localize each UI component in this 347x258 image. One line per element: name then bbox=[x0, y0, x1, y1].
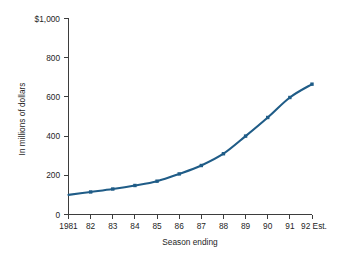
data-point-86 bbox=[177, 172, 180, 175]
x-axis-group: 1981 82 83 84 85 86 87 88 89 90 91 92 Es… bbox=[59, 215, 327, 248]
data-point-90 bbox=[266, 116, 269, 119]
y-tick-label-200: 200 bbox=[46, 170, 60, 180]
chart-canvas: $1,000 800 600 400 200 0 In millions of … bbox=[0, 0, 347, 258]
data-point-83 bbox=[111, 187, 114, 190]
x-tick-label-89: 89 bbox=[241, 221, 251, 231]
y-tick-label-800: 800 bbox=[46, 53, 60, 63]
x-tick-label-84: 84 bbox=[130, 221, 140, 231]
data-point-82 bbox=[89, 190, 92, 193]
data-point-85 bbox=[155, 179, 158, 182]
x-tick-label-88: 88 bbox=[219, 221, 229, 231]
line-chart: $1,000 800 600 400 200 0 In millions of … bbox=[0, 0, 347, 258]
data-point-87 bbox=[200, 164, 203, 167]
data-point-92 Est. bbox=[310, 82, 313, 85]
y-tick-label-0: 0 bbox=[55, 210, 60, 220]
y-tick-label-600: 600 bbox=[46, 92, 60, 102]
x-tick-label-87: 87 bbox=[197, 221, 207, 231]
data-point-91 bbox=[288, 96, 291, 99]
y-tick-label-1000: $1,000 bbox=[35, 14, 61, 24]
data-point-88 bbox=[222, 152, 225, 155]
x-tick-label-91: 91 bbox=[285, 221, 295, 231]
data-series-group bbox=[69, 82, 314, 194]
y-tick-label-400: 400 bbox=[46, 131, 60, 141]
x-tick-label-85: 85 bbox=[152, 221, 162, 231]
x-tick-label-1981: 1981 bbox=[59, 221, 78, 231]
y-axis-title: In millions of dollars bbox=[17, 83, 27, 156]
x-tick-label-86: 86 bbox=[175, 221, 185, 231]
x-tick-label-82: 82 bbox=[86, 221, 96, 231]
revenue-line bbox=[69, 84, 313, 195]
revenue-markers bbox=[89, 82, 314, 193]
y-axis-group: $1,000 800 600 400 200 0 In millions of … bbox=[17, 14, 69, 220]
x-tick-label-83: 83 bbox=[108, 221, 118, 231]
x-tick-label-90: 90 bbox=[263, 221, 273, 231]
data-point-89 bbox=[244, 134, 247, 137]
x-axis-title: Season ending bbox=[162, 237, 218, 247]
data-point-84 bbox=[133, 184, 136, 187]
x-tick-label-92-est: 92 Est. bbox=[301, 221, 327, 231]
